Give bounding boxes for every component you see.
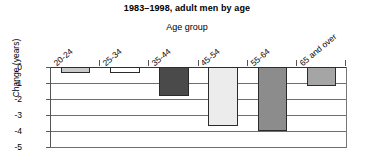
x-category-label: 20-24: [51, 46, 74, 68]
bar-series: [51, 67, 346, 147]
y-tick-label: -1: [0, 79, 22, 87]
x-category-label: 25-34: [101, 46, 124, 68]
x-tick-mark: [247, 60, 248, 66]
bar: [61, 67, 91, 73]
y-tick-label: -4: [0, 127, 22, 135]
bar: [307, 67, 337, 86]
bar: [208, 67, 238, 126]
y-tick-label: 0: [0, 63, 22, 71]
y-tick-label: -2: [0, 95, 22, 103]
plot-area: [50, 67, 347, 148]
y-tick-label: -5: [0, 143, 22, 151]
bar: [110, 67, 140, 73]
x-tick-mark: [296, 60, 297, 66]
x-tick-mark: [99, 60, 100, 66]
x-axis-title: Age group: [0, 22, 374, 32]
gridline: [51, 147, 346, 148]
chart-root: 1983–1998, adult men by age Age group Ch…: [0, 0, 374, 163]
x-category-label: 55-64: [248, 46, 271, 68]
x-category-label: 65 and over: [297, 31, 338, 68]
x-category-label: 35-44: [150, 46, 173, 68]
bar: [258, 67, 288, 131]
x-category-label: 45-54: [199, 46, 222, 68]
y-tick-label: -3: [0, 111, 22, 119]
x-tick-mark: [345, 60, 346, 66]
bar: [159, 67, 189, 96]
chart-title: 1983–1998, adult men by age: [0, 3, 374, 13]
